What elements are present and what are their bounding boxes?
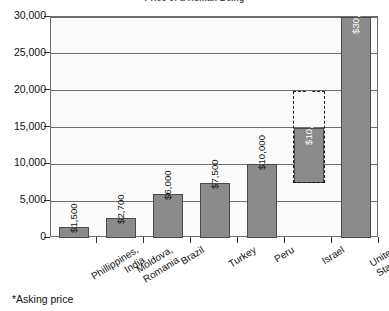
bar[interactable] (153, 194, 183, 238)
y-axis-label: 10,000 (6, 156, 50, 168)
x-axis-tick (143, 237, 144, 243)
gridline (51, 17, 377, 18)
x-axis-tick (284, 237, 285, 243)
bar[interactable] (341, 17, 371, 238)
y-axis-label: 0 (6, 230, 50, 242)
bar[interactable] (200, 183, 230, 238)
bar-value-label: $2,700 (115, 194, 126, 224)
x-axis-tick (378, 237, 379, 243)
y-axis-label: 20,000 (6, 83, 50, 95)
x-axis-category-label: Moldova,Romania (134, 244, 181, 285)
x-axis-category-label: Peru (272, 244, 296, 265)
x-axis-tick (190, 237, 191, 243)
bar[interactable] (247, 164, 277, 238)
y-axis-label: 5,000 (6, 193, 50, 205)
x-axis-category-label: Brazil (179, 244, 206, 267)
x-axis-category-label: UnitedStates (367, 244, 389, 279)
plot-area: $1,500$2,700$6,000$7,500$10,000$10,000-$… (50, 16, 378, 237)
x-axis-category-line: Turkey (227, 244, 259, 270)
bar-value-label: $1,500 (68, 203, 79, 233)
x-axis-category-line: Peru (272, 244, 296, 265)
bar-value-label: $10,000-$20,000 (303, 71, 314, 144)
x-axis-category-label: Israel (319, 244, 346, 267)
chart-title: Price of a Human Being (0, 0, 389, 3)
y-axis-label: 30,000 (6, 9, 50, 21)
y-axis-label: 25,000 (6, 46, 50, 58)
x-axis-tick (96, 237, 97, 243)
chart-container: Price of a Human Being $1,500$2,700$6,00… (0, 0, 389, 311)
bar-value-label: $30,000* (350, 0, 361, 34)
chart-footnote: *Asking price (12, 293, 73, 305)
y-axis: 05,00010,00015,00020,00025,00030,000 (0, 0, 50, 311)
bar-value-label: $6,000 (162, 170, 173, 200)
gridline (51, 127, 377, 128)
bar-value-label: $10,000 (256, 135, 267, 170)
x-axis-tick (331, 237, 332, 243)
gridline (51, 53, 377, 54)
x-axis-category-line: Israel (319, 244, 346, 267)
x-axis-category-line: Brazil (179, 244, 206, 267)
y-axis-label: 15,000 (6, 120, 50, 132)
bar-value-label: $7,500 (209, 159, 220, 189)
x-axis-category-label: Turkey (227, 244, 259, 270)
gridline (51, 90, 377, 91)
x-axis-tick (237, 237, 238, 243)
